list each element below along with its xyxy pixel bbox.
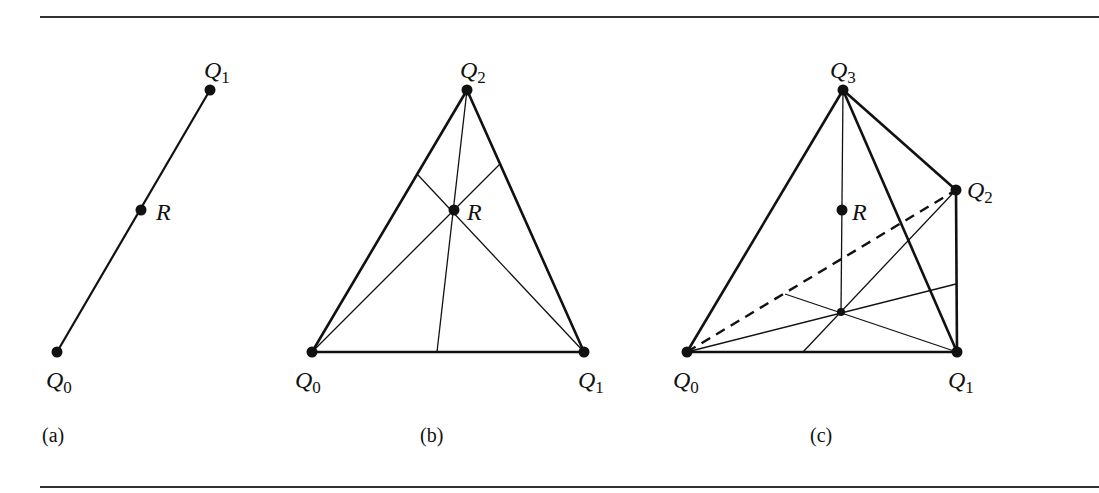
caption-b: (b) (420, 424, 443, 447)
edge-q0-q3 (687, 90, 843, 352)
panel-a: Q0 Q1 R (a) (42, 57, 230, 447)
figure-canvas: Q0 Q1 R (a) Q0 Q1 Q2 R (b) (0, 0, 1099, 493)
point-q0 (682, 347, 693, 358)
point-q0 (52, 347, 63, 358)
point-q1 (205, 85, 216, 96)
triangle (312, 90, 584, 352)
point-q1 (952, 347, 963, 358)
point-q2 (951, 185, 962, 196)
base-centroid (837, 308, 845, 316)
edge-q1-q2 (956, 190, 957, 352)
caption-c: (c) (810, 424, 832, 447)
hidden-edge-q0-q2 (687, 190, 956, 352)
point-r (837, 205, 848, 216)
caption-a: (a) (42, 424, 64, 447)
edge-q2-q3 (843, 90, 956, 190)
point-r (136, 205, 147, 216)
point-q2 (462, 85, 473, 96)
panel-c: Q0 Q1 Q2 Q3 R (c) (673, 57, 993, 447)
label-q1: Q1 (204, 57, 230, 87)
label-q2: Q2 (460, 57, 486, 87)
label-q0: Q0 (46, 367, 72, 397)
label-q2: Q2 (967, 177, 993, 207)
segment-q0-q1 (57, 90, 210, 352)
line-q3-centroid (841, 90, 843, 312)
cevian-q1 (418, 175, 584, 352)
point-r (449, 205, 460, 216)
cevian-q2-base (803, 190, 956, 352)
point-q0 (307, 347, 318, 358)
label-r: R (851, 199, 867, 225)
label-r: R (466, 199, 482, 225)
label-q1: Q1 (948, 367, 974, 397)
label-q1: Q1 (578, 367, 604, 397)
label-q0: Q0 (295, 367, 321, 397)
point-q1 (579, 347, 590, 358)
cevian-q2 (437, 90, 467, 352)
label-q3: Q3 (830, 57, 856, 87)
label-r: R (155, 199, 171, 225)
cevian-q0-base (687, 284, 956, 352)
panel-b: Q0 Q1 Q2 R (b) (295, 57, 604, 447)
label-q0: Q0 (673, 367, 699, 397)
